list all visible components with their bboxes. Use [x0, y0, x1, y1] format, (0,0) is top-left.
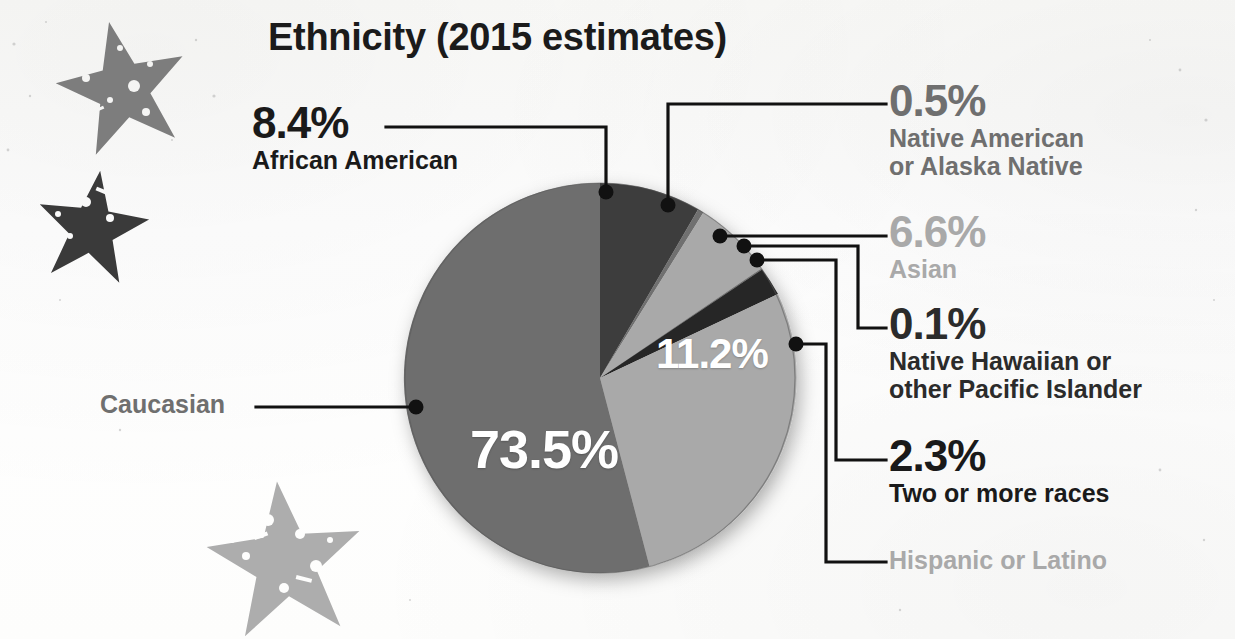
- callout-hispanic-latino: Hispanic or Latino: [889, 546, 1107, 575]
- callout-name-native-hawaiian-line1: Native Hawaiian or: [889, 347, 1142, 376]
- callout-name-caucasian: Caucasian: [100, 390, 225, 419]
- infographic-canvas: Ethnicity (2015 estimates) 73.5% 11.2% 8…: [0, 0, 1235, 639]
- callout-name-two-or-more-races: Two or more races: [889, 479, 1109, 508]
- leader-native-american: [668, 104, 886, 205]
- callout-name-native-hawaiian-line2: other Pacific Islander: [889, 375, 1142, 404]
- callout-two-or-more-races: 2.3% Two or more races: [889, 433, 1109, 507]
- callout-native-american: 0.5% Native American or Alaska Native: [889, 78, 1084, 181]
- callout-pct-asian: 6.6%: [889, 209, 985, 255]
- leader-dot-native-hawaiian: [737, 239, 752, 254]
- leader-hispanic-latino: [796, 344, 886, 562]
- callout-name-hispanic-latino: Hispanic or Latino: [889, 546, 1107, 575]
- callout-caucasian: Caucasian: [100, 390, 225, 419]
- leader-dot-two-or-more-races: [750, 253, 765, 268]
- callout-name-asian: Asian: [889, 255, 985, 284]
- leader-dot-native-american: [661, 198, 676, 213]
- callout-pct-two-or-more-races: 2.3%: [889, 433, 1109, 479]
- callout-name-native-american-line1: Native American: [889, 124, 1084, 153]
- leader-dot-asian: [713, 229, 728, 244]
- pie-value-hispanic-latino: 11.2%: [656, 330, 768, 378]
- pie-value-caucasian: 73.5%: [470, 418, 618, 480]
- callout-name-african-american: African American: [252, 146, 458, 175]
- callout-pct-native-hawaiian: 0.1%: [889, 301, 1142, 347]
- callout-african-american: 8.4% African American: [252, 100, 458, 174]
- callout-name-native-american-line2: or Alaska Native: [889, 152, 1084, 181]
- callout-pct-african-american: 8.4%: [252, 100, 458, 146]
- callout-pct-native-american: 0.5%: [889, 78, 1084, 124]
- leader-dot-caucasian: [409, 400, 424, 415]
- leader-dot-hispanic-latino: [789, 337, 804, 352]
- leader-dot-african-american: [599, 185, 614, 200]
- callout-native-hawaiian: 0.1% Native Hawaiian or other Pacific Is…: [889, 301, 1142, 404]
- callout-asian: 6.6% Asian: [889, 209, 985, 283]
- chart-title: Ethnicity (2015 estimates): [0, 16, 1235, 59]
